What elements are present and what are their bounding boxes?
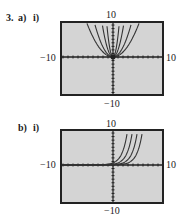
- chart-a-left-label: −10: [40, 53, 56, 63]
- chart-a-bottom-label: −10: [104, 99, 120, 109]
- chart-b-bottom-label: −10: [104, 206, 120, 216]
- graph-b-canvas: [60, 129, 164, 204]
- graph-a-canvas: [60, 21, 164, 96]
- graph-b: [60, 129, 164, 204]
- part-a-sub-label: i): [33, 13, 39, 23]
- chart-b-left-label: −10: [40, 160, 56, 170]
- graph-a: [60, 21, 164, 96]
- part-b-sub-label: i): [33, 123, 39, 133]
- chart-b-right-label: 10: [166, 160, 176, 170]
- chart-b-top-label: 10: [106, 119, 116, 129]
- part-a-label: a): [18, 13, 26, 23]
- part-b-label: b): [18, 123, 27, 133]
- chart-a-top-label: 10: [106, 10, 116, 20]
- chart-a-right-label: 10: [166, 53, 176, 63]
- problem-number: 3.: [6, 13, 14, 23]
